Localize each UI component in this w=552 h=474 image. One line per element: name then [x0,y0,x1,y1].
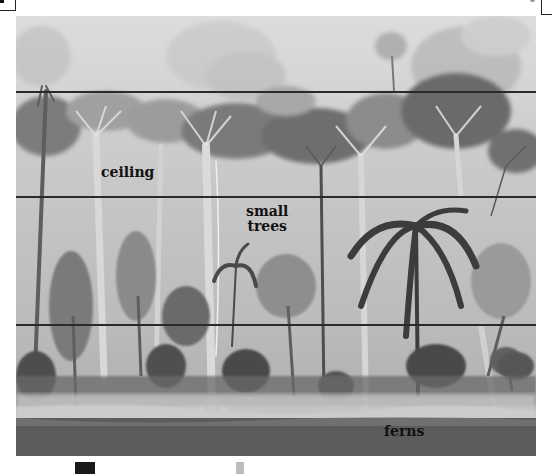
caption-text-fragment [236,462,244,474]
label-ferns: ferns [384,424,424,439]
divider-line-ceiling-small-trees [16,196,536,198]
label-small-trees: small trees [246,204,288,234]
forest-painting [16,16,536,456]
crop-mark-top-right [541,0,552,15]
label-small-trees-line1: small [246,204,288,219]
rainforest-layers-illustration: ceiling small trees ferns [16,16,536,456]
label-small-trees-line2: trees [246,219,288,234]
caption-text-fragment [75,462,95,474]
palm-tree-small [214,244,256,346]
crop-mark-top-left [0,0,16,11]
label-ceiling: ceiling [101,165,154,180]
divider-line-small-trees-undergrowth [16,324,536,326]
divider-line-emergent-ceiling [16,91,536,93]
